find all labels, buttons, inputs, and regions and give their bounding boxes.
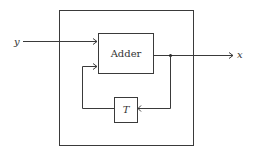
feedback-line-to-delay <box>138 56 171 109</box>
delay-block: T <box>115 98 138 123</box>
adder-block: Adder <box>99 34 154 74</box>
block-diagram: y Adder x T <box>0 0 256 151</box>
adder-label: Adder <box>110 48 142 59</box>
output-label-x: x <box>237 49 243 60</box>
system-boundary-box <box>60 11 194 146</box>
delay-label: T <box>123 104 131 115</box>
input-label-y: y <box>13 36 20 47</box>
